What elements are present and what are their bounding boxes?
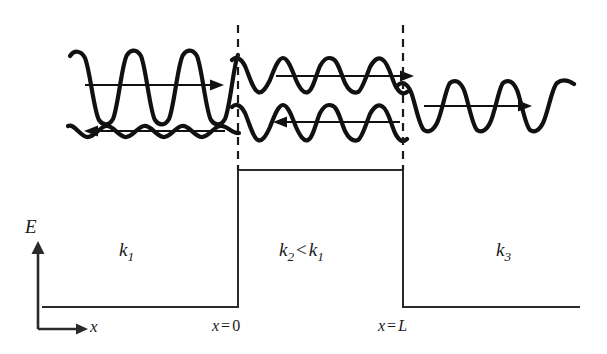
potential-barrier-figure: E x k1 k2<k1 k3 x=0 x=L xyxy=(0,0,607,354)
position-axis xyxy=(38,324,88,335)
right-boundary-label: x=L xyxy=(378,318,407,334)
figure-canvas xyxy=(0,0,607,354)
position-axis-label: x xyxy=(90,318,98,335)
k1-subscript: 1 xyxy=(127,249,134,264)
region-3-wavenumber-label: k3 xyxy=(496,240,511,263)
k1-compare-subscript: 1 xyxy=(317,249,324,264)
reflected-wave-group xyxy=(68,126,239,138)
k3-subscript: 3 xyxy=(504,249,511,264)
left-boundary-equals: = xyxy=(219,317,232,334)
region-1-wavenumber-label: k1 xyxy=(119,240,134,263)
right-boundary-value: L xyxy=(398,317,407,334)
region-2-wavenumber-label: k2<k1 xyxy=(279,240,324,263)
incident-wave-group xyxy=(70,51,238,125)
less-than-sign: < xyxy=(294,239,309,260)
k1-compare-symbol: k xyxy=(309,239,317,260)
transmitted-wave-group xyxy=(398,80,574,131)
energy-axis-label: E xyxy=(25,217,37,236)
energy-axis xyxy=(32,241,45,329)
barrier-forward-wave-group xyxy=(232,58,414,93)
right-boundary-equals: = xyxy=(385,317,398,334)
left-boundary-value: 0 xyxy=(232,317,240,334)
barrier-backward-wave-group xyxy=(232,105,407,141)
left-boundary-label: x=0 xyxy=(212,318,240,334)
